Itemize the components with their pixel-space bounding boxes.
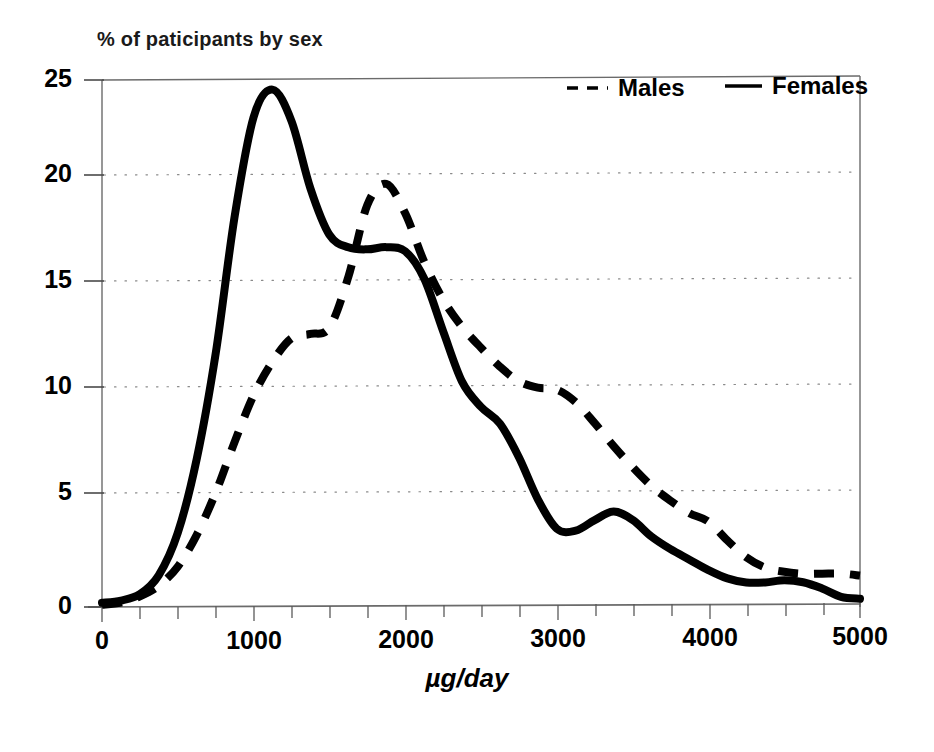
x-tick-label-0: 0	[32, 626, 172, 655]
x-tick-label-1000: 1000	[184, 626, 324, 655]
y-axis-ticks	[84, 80, 104, 607]
x-tick-label-3000: 3000	[488, 624, 628, 653]
y-tick-label-25: 25	[12, 64, 72, 93]
x-axis-title: µg/day	[0, 663, 934, 694]
y-tick-label-5: 5	[12, 477, 72, 506]
x-tick-label-2000: 2000	[336, 625, 476, 654]
y-tick-label-0: 0	[12, 591, 72, 620]
legend-label-females: Females	[772, 72, 868, 100]
legend-label-males: Males	[618, 74, 685, 102]
y-tick-label-15: 15	[12, 265, 72, 294]
series-line-males	[102, 184, 860, 605]
chart-figure: % of paticipants by sex	[0, 0, 934, 752]
x-tick-label-5000: 5000	[790, 622, 930, 651]
x-tick-label-4000: 4000	[640, 623, 780, 652]
y-tick-label-20: 20	[12, 159, 72, 188]
y-tick-label-10: 10	[12, 371, 72, 400]
